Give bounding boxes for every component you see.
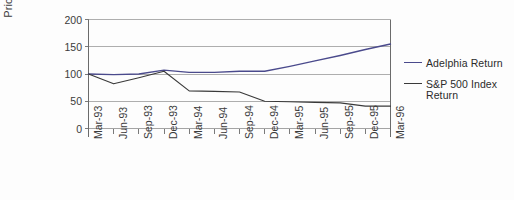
chart-figure: Price index 200150100500 Mar-93Jun-93Sep…: [0, 0, 514, 200]
series-line-adelphia: [89, 44, 391, 75]
legend-label: S&P 500 Index Return: [426, 79, 512, 102]
legend-item-adelphia[interactable]: Adelphia Return: [404, 58, 512, 70]
legend-line-icon: [404, 62, 422, 72]
legend-item-sp500[interactable]: S&P 500 Index Return: [404, 79, 512, 102]
chart-legend: Adelphia ReturnS&P 500 Index Return: [404, 58, 512, 111]
legend-line-icon: [404, 83, 422, 93]
legend-label: Adelphia Return: [426, 58, 503, 70]
